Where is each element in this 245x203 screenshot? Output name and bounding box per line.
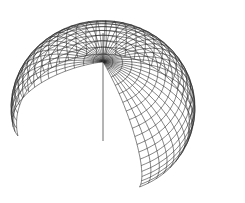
wireframe-sphere: [0, 0, 245, 203]
mesh-line: [103, 62, 195, 126]
mesh-line: [103, 62, 142, 187]
mesh-line: [12, 62, 103, 136]
figure-canvas: [0, 0, 245, 203]
mesh-line: [103, 62, 194, 133]
mesh-line: [103, 62, 174, 168]
mesh-line: [11, 62, 103, 129]
